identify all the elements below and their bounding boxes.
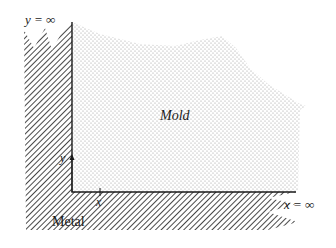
mold-metal-diagram: y = ∞ x = ∞ Mold Metal y x — [0, 0, 336, 248]
x-infinity-label: x = ∞ — [283, 197, 314, 212]
y-axis-label: y — [59, 151, 66, 165]
y-infinity-label: y = ∞ — [23, 12, 55, 27]
x-axis-label: x — [95, 195, 102, 209]
mold-region — [72, 22, 306, 192]
metal-label: Metal — [52, 214, 85, 229]
mold-label: Mold — [159, 108, 191, 123]
